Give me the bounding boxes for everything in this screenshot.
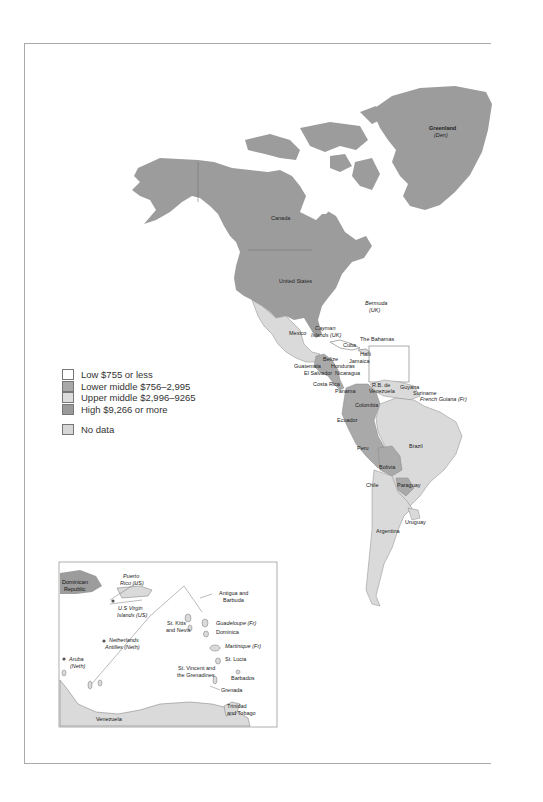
inset-label-martinique: Martinique (Fr)	[225, 644, 261, 650]
label-belize: Belize	[323, 357, 338, 363]
label-bermuda-sub: (UK)	[369, 308, 380, 314]
legend-swatch-high	[62, 404, 74, 415]
legend-item-low: Low $755 or less	[62, 369, 196, 381]
inset-label-st-kitts: St. Kitts	[167, 621, 186, 627]
inset-label-puerto-rico-sub: Rico (US)	[120, 581, 144, 587]
label-french-guiana: French Guiana (Fr)	[420, 397, 467, 403]
label-peru: Peru	[357, 446, 369, 452]
legend-swatch-upper-middle	[62, 392, 74, 403]
legend-swatch-low	[62, 369, 74, 380]
inset-label-antigua: Antigua and	[219, 591, 248, 597]
inset-label-netherlands-antilles-sub: Antilles (Neth)	[105, 645, 140, 651]
label-canada: Canada	[271, 216, 290, 222]
legend-item-lower-middle: Lower middle $756–2,995	[62, 381, 196, 393]
legend-swatch-no-data	[62, 424, 74, 435]
label-argentina: Argentina	[376, 529, 400, 535]
legend: Low $755 or less Lower middle $756–2,995…	[62, 369, 196, 436]
inset-label-grenada: Grenada	[221, 688, 242, 694]
label-nicaragua: Nicaragua	[335, 371, 360, 377]
inset-label-aruba: Aruba	[69, 657, 84, 663]
label-greenland-sub: (Den)	[434, 133, 448, 139]
label-brazil: Brazil	[409, 444, 423, 450]
inset-label-netherlands-antilles: Netherlands	[109, 638, 139, 644]
label-mexico: Mexico	[289, 331, 306, 337]
label-haiti: Haiti	[360, 352, 371, 358]
label-united-states: United States	[279, 279, 312, 285]
label-paraguay: Paraguay	[397, 483, 421, 489]
label-el-salvador: El Salvador	[304, 371, 332, 377]
inset-locator-box	[369, 346, 409, 382]
region-greenland	[372, 86, 492, 210]
inset-label-st-vincent-sub: the Grenadines	[177, 673, 215, 679]
legend-item-no-data: No data	[62, 424, 196, 436]
label-greenland: Greenland	[429, 126, 456, 132]
label-bermuda: Bermuda	[365, 301, 387, 307]
inset-label-antigua-sub: Barbuda	[223, 598, 244, 604]
legend-label: High $9,266 or more	[81, 404, 168, 415]
inset-label-us-virgin: U.S Virgin	[118, 606, 143, 612]
legend-label: No data	[81, 424, 114, 435]
inset-label-dominican-republic: Dominican	[62, 580, 88, 586]
legend-item-high: High $9,266 or more	[62, 404, 196, 416]
inset-label-puerto-rico: Puerto	[123, 574, 139, 580]
inset-label-dominica: Dominica	[216, 630, 239, 636]
inset-label-guadeloupe: Guadeloupe (Fr)	[216, 621, 256, 627]
label-ecuador: Ecuador	[337, 418, 358, 424]
inset-label-venezuela: Venezuela	[96, 717, 122, 723]
inset-label-st-vincent: St. Vincent and	[178, 666, 215, 672]
label-venezuela-sub: Venezuela	[369, 389, 395, 395]
region-north-america	[132, 158, 372, 338]
label-guatemala: Guatemala	[294, 364, 321, 370]
label-uruguay: Uruguay	[405, 520, 426, 526]
water-hudson-bay	[308, 178, 340, 214]
legend-item-upper-middle: Upper middle $2,996–9265	[62, 392, 196, 404]
legend-label: Low $755 or less	[81, 369, 153, 380]
legend-swatch-lower-middle	[62, 381, 74, 392]
inset-label-us-virgin-sub: Islands (US)	[117, 613, 147, 619]
inset-label-aruba-sub: (Neth)	[70, 664, 85, 670]
inset-label-st-lucia: St. Lucia	[225, 657, 246, 663]
label-chile: Chile	[366, 483, 379, 489]
label-costa-rica: Costa Rica	[313, 382, 340, 388]
inset-label-trinidad: Trinidad	[227, 704, 247, 710]
label-cayman: Cayman	[315, 326, 335, 332]
inset-label-barbados: Barbados	[231, 676, 255, 682]
inset-label-trinidad-sub: and Tobago	[227, 711, 256, 717]
label-bolivia: Bolivia	[379, 465, 395, 471]
inset-label-dominican-republic-sub: Republic	[64, 587, 85, 593]
legend-label: Lower middle $756–2,995	[81, 381, 190, 392]
label-cayman-sub: Islands (UK)	[311, 333, 341, 339]
label-cuba: Cuba	[343, 343, 356, 349]
legend-label: Upper middle $2,996–9265	[81, 392, 196, 403]
label-bahamas: The Bahamas	[360, 337, 394, 343]
inset-label-st-kitts-sub: and Nevis	[166, 628, 190, 634]
label-panama: Panama	[335, 389, 356, 395]
label-honduras: Honduras	[331, 364, 355, 370]
label-colombia: Colombia	[355, 403, 378, 409]
